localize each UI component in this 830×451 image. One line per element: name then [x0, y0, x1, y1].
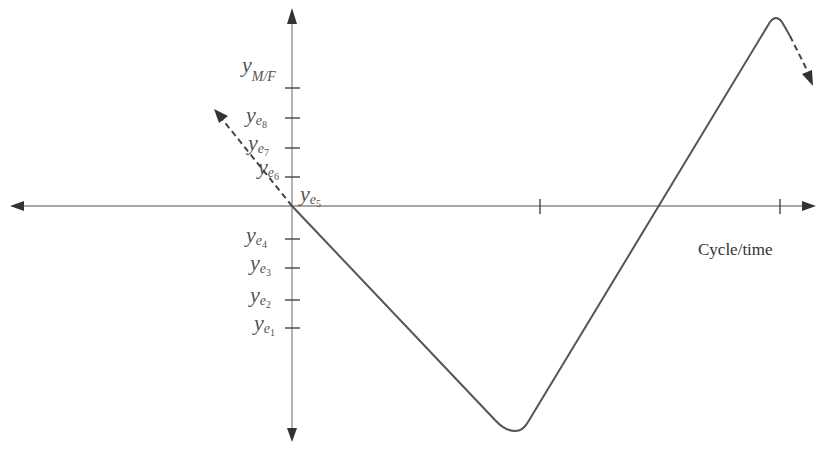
- y-label-e6: ye6: [256, 154, 279, 182]
- y-axis-up-arrow-icon: [287, 8, 297, 24]
- x-axis-label: Cycle/time: [698, 240, 773, 259]
- future-arrow-icon: [802, 70, 813, 86]
- y-label-mf: yM/F: [240, 52, 276, 84]
- future-extension: [790, 36, 813, 86]
- y-label-e1: ye1: [252, 310, 275, 338]
- y-label-e2: ye2: [248, 282, 271, 310]
- y-label-e5: ye5: [298, 181, 321, 209]
- y-axis-down-arrow-icon: [287, 428, 297, 442]
- past-arrow-icon: [214, 109, 228, 123]
- x-axis: Cycle/time: [10, 199, 816, 259]
- strain-curve: [292, 18, 790, 431]
- x-axis-right-arrow-icon: [802, 201, 816, 211]
- y-label-e3: ye3: [248, 250, 271, 278]
- y-label-e4: ye4: [244, 222, 267, 250]
- strain-cycle-diagram: Cycle/time yM/F ye8 ye7 ye6 ye5: [0, 0, 830, 451]
- y-label-e8: ye8: [244, 102, 267, 130]
- x-axis-left-arrow-icon: [10, 201, 24, 211]
